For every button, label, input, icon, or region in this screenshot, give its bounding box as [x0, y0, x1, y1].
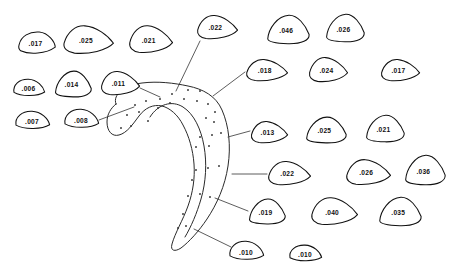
speckle-dot [220, 132, 222, 134]
measurement-blob[interactable]: .017 [19, 32, 56, 53]
speckle-dot [199, 136, 201, 138]
figure-canvas: .017.025.021.022.046.026.006.014.011.018… [0, 0, 450, 270]
speckle-dot [126, 114, 128, 116]
leader-line [194, 229, 231, 247]
blob-value-label: .036 [416, 168, 430, 175]
leader-line [215, 198, 248, 211]
speckle-dot [147, 120, 149, 122]
measurement-blob[interactable]: .022 [198, 16, 238, 39]
speckle-dot [205, 117, 207, 119]
blob-value-label: .010 [298, 251, 312, 258]
leader-line [228, 131, 250, 137]
measurement-blob[interactable]: .018 [247, 59, 288, 80]
blob-value-label: .017 [391, 67, 405, 74]
speckle-dot [195, 146, 197, 148]
blob-value-label: .010 [239, 249, 253, 256]
measurement-blob[interactable]: .007 [16, 111, 50, 128]
speckle-dot [199, 90, 201, 92]
blob-value-label: .014 [65, 81, 79, 88]
measurement-blob[interactable]: .021 [130, 26, 173, 53]
speckle-dot [211, 134, 213, 136]
blob-value-label: .040 [325, 209, 339, 216]
blob-value-label: .021 [376, 126, 390, 133]
leader-line [140, 88, 160, 97]
speckle-dot [134, 104, 136, 106]
blob-value-label: .022 [280, 170, 294, 177]
blob-value-label: .007 [25, 118, 39, 125]
blob-value-label: .035 [391, 209, 405, 216]
speckle-dot [159, 98, 161, 100]
measurement-blob[interactable]: .036 [406, 155, 445, 184]
measurement-blob[interactable]: .011 [101, 72, 139, 95]
measurement-blob[interactable]: .008 [65, 109, 99, 127]
speckle-dot [207, 167, 209, 169]
speckle-dot [196, 100, 198, 102]
blob-value-label: .018 [258, 67, 272, 74]
speckle-dot [213, 121, 215, 123]
measurement-blob[interactable]: .026 [347, 160, 391, 185]
blob-group: .017.025.021.022.046.026.006.014.011.018… [14, 14, 445, 261]
speckle-dot [169, 102, 171, 104]
blob-value-label: .025 [79, 37, 93, 44]
measurement-blob[interactable]: .046 [268, 15, 309, 44]
main-outline-outer [107, 82, 229, 250]
speckle-dot [191, 179, 193, 181]
blob-value-label: .024 [319, 67, 333, 74]
blob-value-label: .021 [142, 37, 156, 44]
measurement-blob[interactable]: .025 [64, 26, 114, 54]
speckle-dot [177, 227, 179, 229]
speckle-dot [214, 111, 216, 113]
drawing-surface: .017.025.021.022.046.026.006.014.011.018… [0, 0, 450, 270]
blob-value-label: .025 [317, 127, 331, 134]
speckle-dot [218, 165, 220, 167]
speckle-dot [207, 103, 209, 105]
hook-shaped-outline [107, 82, 229, 250]
measurement-blob[interactable]: .025 [307, 117, 346, 143]
leader-line [176, 41, 200, 91]
blob-value-label: .022 [208, 24, 222, 31]
speckle-dot [185, 225, 187, 227]
speckle-dot [171, 93, 173, 95]
blob-value-label: .013 [261, 129, 275, 136]
measurement-blob[interactable]: .010 [290, 245, 322, 261]
leader-line [213, 72, 245, 96]
measurement-blob[interactable]: .040 [312, 198, 358, 225]
blob-value-label: .008 [74, 117, 88, 124]
measurement-blob[interactable]: .013 [251, 121, 287, 142]
blob-value-label: .017 [29, 40, 43, 47]
measurement-blob[interactable]: .019 [250, 199, 286, 224]
speckle-dot [199, 193, 201, 195]
speckle-dot [138, 111, 140, 113]
blob-value-label: .046 [279, 27, 293, 34]
leader-line [99, 107, 134, 120]
speckle-dot [187, 89, 189, 91]
speckle-dot [183, 98, 185, 100]
speckle-dot [195, 169, 197, 171]
measurement-blob[interactable]: .021 [367, 115, 405, 142]
speckle-dot [208, 145, 210, 147]
main-outline-inner-lobe [150, 104, 206, 237]
blob-value-label: .011 [112, 80, 126, 87]
leader-line-group [99, 41, 267, 247]
speckle-dot [187, 195, 189, 197]
blob-value-label: .019 [259, 209, 273, 216]
measurement-blob[interactable]: .022 [269, 162, 311, 185]
blob-value-label: .006 [22, 85, 36, 92]
measurement-blob[interactable]: .035 [380, 197, 421, 226]
measurement-blob[interactable]: .017 [381, 59, 419, 80]
speckle-dot [130, 125, 132, 127]
blob-value-label: .026 [359, 169, 373, 176]
blob-value-label: .026 [336, 26, 350, 33]
measurement-blob[interactable]: .024 [309, 58, 347, 82]
speckle-dot [209, 196, 211, 198]
speckle-dot [120, 127, 122, 129]
measurement-blob[interactable]: .014 [56, 71, 92, 97]
measurement-blob[interactable]: .006 [14, 79, 45, 95]
measurement-blob[interactable]: .026 [327, 14, 365, 42]
speckle-dot [157, 107, 159, 109]
speckle-dot [182, 213, 184, 215]
measurement-blob[interactable]: .010 [230, 241, 264, 259]
speckle-dot [145, 100, 147, 102]
